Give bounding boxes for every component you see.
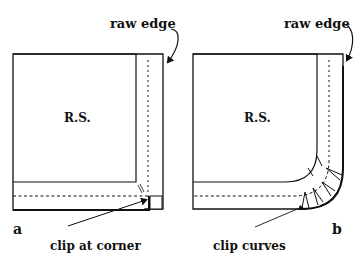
panel-b-fabric-label: R.S. (244, 111, 271, 125)
panel-a-clipped-corner (150, 196, 162, 209)
panel-a-raw-edge-label: raw edge (110, 16, 176, 31)
panel-a-clip-label: clip at corner (50, 239, 141, 253)
panel-a-raw-edge-arrow (168, 29, 178, 62)
diagram-svg: raw edge R.S. a clip at corner (0, 0, 362, 256)
panel-b: raw edge R.S. b clip curves (193, 16, 353, 253)
panel-b-clip-label: clip curves (213, 239, 286, 253)
sewing-diagram: raw edge R.S. a clip at corner (0, 0, 362, 256)
panel-b-label: b (332, 221, 342, 237)
panel-a-fabric-label: R.S. (64, 111, 91, 125)
panel-a: raw edge R.S. a clip at corner (13, 16, 178, 253)
panel-a-clip-leader (68, 200, 146, 226)
panel-a-label: a (13, 221, 22, 237)
panel-b-clip-leader (255, 207, 302, 227)
panel-a-outer-edge (13, 54, 163, 210)
panel-b-stitch-curve (193, 160, 329, 196)
panel-b-raw-edge-label: raw edge (284, 16, 350, 31)
panel-b-clip-notches (302, 156, 342, 208)
